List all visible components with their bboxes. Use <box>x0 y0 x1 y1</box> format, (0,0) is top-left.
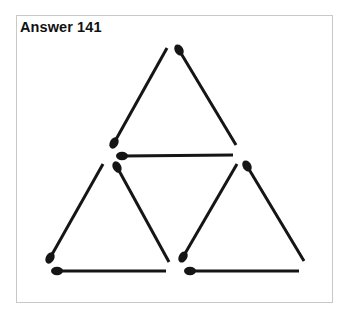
matchstick-top-base <box>116 152 233 161</box>
matchstick-right-tri-right <box>240 159 304 261</box>
matchstick-left-tri-left <box>43 164 103 265</box>
matchstick-stick <box>50 164 103 258</box>
matchstick-head-icon <box>110 160 123 175</box>
matchstick-left-tri-right <box>110 160 169 262</box>
matchstick-triangles-figure <box>0 0 344 313</box>
matchstick-top-left <box>107 48 167 150</box>
matchstick-head-icon <box>43 251 56 266</box>
matchstick-top-right <box>172 43 236 145</box>
matchstick-left-tri-base <box>51 267 166 275</box>
matchstick-stick <box>117 167 169 262</box>
matchstick-head-icon <box>116 152 128 161</box>
matchstick-right-tri-base <box>184 267 299 275</box>
matchstick-stick <box>183 164 237 257</box>
matchstick-head-icon <box>51 267 63 275</box>
matchstick-stick <box>122 155 233 156</box>
matchstick-right-tri-left <box>176 164 237 264</box>
matchsticks-group <box>43 43 304 276</box>
matchstick-stick <box>247 166 304 261</box>
matchstick-head-icon <box>184 267 196 275</box>
matchstick-stick <box>179 50 236 145</box>
matchstick-stick <box>114 48 167 143</box>
matchstick-head-icon <box>107 136 120 151</box>
